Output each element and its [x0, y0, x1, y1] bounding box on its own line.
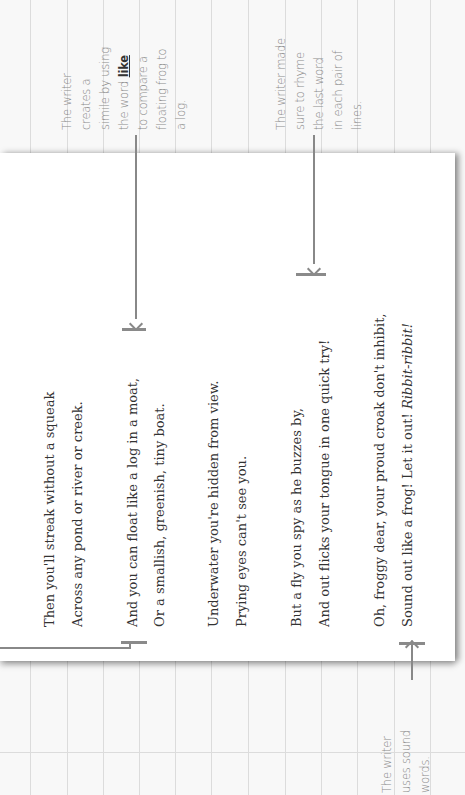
poem-line: Then you'll streak without a squeak [42, 392, 58, 627]
annotation-line: uses sound [397, 693, 416, 793]
annotation-line: sure to rhyme [291, 5, 310, 130]
annotation-line: The writer made [272, 5, 291, 130]
annotation-line: The writer [58, 5, 77, 130]
annotation-line: floating frog to [153, 5, 172, 130]
bracket-icon [296, 273, 326, 276]
left-connector-line [0, 647, 130, 649]
annotation-line: to compare a [134, 5, 153, 130]
poem-line: Oh, froggy dear, your proud croak don't … [372, 313, 388, 627]
bracket-icon [122, 328, 146, 331]
rhyme-connector-line [313, 135, 315, 264]
poem-line: Or a smallish, greenish, tiny boat. [152, 403, 168, 627]
annotation-line: simile by using [96, 5, 115, 130]
annotation-line: the last word [310, 5, 329, 130]
poem-line: And out flicks your tongue in one quick … [317, 340, 333, 627]
annotation-line: creates a [77, 5, 96, 130]
annotation-line: lines. [348, 5, 367, 130]
bracket-icon [121, 641, 147, 644]
annotation-line: a log. [172, 5, 191, 130]
annotation-line: The writer [378, 693, 397, 793]
simile-connector-line [135, 135, 137, 319]
annotation-text: the word [117, 77, 131, 130]
poem-page: Then you'll streak without a squeak Acro… [0, 153, 455, 661]
poem-line-last: Sound out like a frog! Let it out! Ribbi… [400, 323, 416, 627]
poem-line: Underwater you're hidden from view. [206, 381, 222, 627]
poem-line: Across any pond or river or creek. [70, 401, 86, 627]
annotation-line: words. [416, 693, 435, 793]
poem-line-text: Sound out like a frog! Let it out! [400, 413, 415, 627]
poem-line: Prying eyes can't see you. [234, 456, 250, 627]
annotation-line: in each pair of [329, 5, 348, 130]
emphasized-word: like [117, 55, 131, 77]
annotation-line: the word like [115, 5, 134, 130]
bracket-icon [399, 642, 425, 645]
annotation-rhyme: The writer made sure to rhyme the last w… [272, 5, 367, 130]
notebook-canvas: Then you'll streak without a squeak Acro… [0, 0, 465, 795]
annotation-simile: The writer creates a simile by using the… [58, 5, 191, 130]
poem-line: But a fly you spy as he buzzes by, [289, 408, 305, 627]
sound-words: Ribbit-ribbit! [400, 323, 415, 409]
poem-line: And you can float like a log in a moat, [125, 378, 141, 627]
annotation-sound-words: The writer uses sound words. [378, 693, 435, 793]
